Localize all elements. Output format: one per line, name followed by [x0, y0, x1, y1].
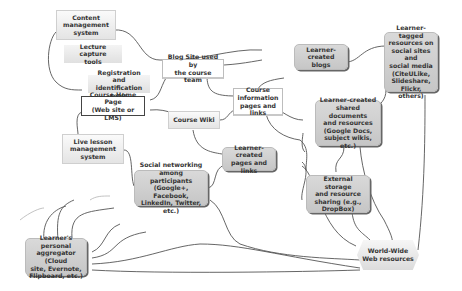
- node-line: subject wikis, etc.): [318, 134, 378, 149]
- node-line: Live lesson: [70, 138, 116, 146]
- node-line: World-Wide: [362, 247, 414, 255]
- node-line: system: [63, 29, 109, 37]
- node-line: resources on: [387, 39, 435, 47]
- node-line: Course Wiki: [173, 116, 214, 124]
- node-line: Slideshare, Flickr,: [387, 77, 435, 92]
- node-line: information: [236, 94, 280, 102]
- node-line: blogs: [297, 61, 345, 69]
- node-line: Registration and: [90, 69, 148, 84]
- node-line: social sites and: [387, 47, 435, 62]
- node-line: among participants: [137, 169, 205, 184]
- node-learner-tagged-resources[interactable]: Learner-tagged resources on social sites…: [384, 32, 438, 92]
- node-line: the course team: [165, 69, 221, 84]
- node-learner-created-blogs[interactable]: Learner-created blogs: [294, 44, 348, 70]
- node-line: Learner-created: [318, 96, 378, 104]
- node-line: and resource: [309, 190, 367, 198]
- node-line: social media: [387, 62, 435, 70]
- node-line: Social networking: [137, 161, 205, 169]
- node-line: others): [387, 92, 435, 100]
- node-blog-site[interactable]: Blog Site used by the course team: [162, 59, 224, 79]
- node-line: management: [70, 145, 116, 153]
- node-course-home-page[interactable]: Course Home Page (Web site or LMS): [81, 96, 145, 116]
- mind-map-canvas: Content management system Lecture captur…: [0, 0, 462, 291]
- node-line: pages and links: [225, 159, 273, 174]
- node-line: (Google+, Facebook,: [137, 184, 205, 199]
- node-line: External storage: [309, 175, 367, 190]
- node-social-networking[interactable]: Social networking among participants (Go…: [134, 170, 208, 206]
- node-line: Learner-tagged: [387, 24, 435, 39]
- node-line: site, Evernote,: [28, 265, 84, 273]
- node-line: management: [63, 21, 109, 29]
- node-line: system: [70, 153, 116, 161]
- node-line: Lecture capture: [66, 43, 120, 58]
- node-line: (Google Docs,: [318, 127, 378, 135]
- node-course-information-pages[interactable]: Course information pages and links: [233, 88, 283, 116]
- node-line: sharing (e.g.,: [309, 198, 367, 206]
- node-line: Course Home Page: [84, 91, 142, 106]
- node-lecture-capture-tools[interactable]: Lecture capture tools: [64, 45, 122, 63]
- node-line: tools: [66, 58, 120, 66]
- node-world-wide-web-resources[interactable]: World-Wide Web resources: [357, 240, 419, 270]
- node-line: (CiteULike,: [387, 70, 435, 78]
- node-line: Blog Site used by: [165, 53, 221, 68]
- node-course-wiki[interactable]: Course Wiki: [168, 111, 220, 129]
- node-line: and resources: [318, 119, 378, 127]
- node-line: Flipboard, etc.): [28, 272, 84, 280]
- node-line: Content: [63, 14, 109, 22]
- node-line: DropBox): [309, 205, 367, 213]
- node-learner-shared-documents[interactable]: Learner-created shared documents and res…: [315, 100, 381, 146]
- node-content-management-system[interactable]: Content management system: [56, 10, 116, 40]
- node-line: Learner-created: [225, 144, 273, 159]
- node-line: pages and links: [236, 102, 280, 117]
- node-personal-aggregator[interactable]: Learner's personal aggregator (Cloud sit…: [25, 238, 87, 276]
- node-live-lesson-management[interactable]: Live lesson management system: [62, 134, 124, 164]
- node-external-storage[interactable]: External storage and resource sharing (e…: [306, 175, 370, 213]
- node-line: Course: [236, 86, 280, 94]
- node-line: (Web site or LMS): [84, 106, 142, 121]
- node-learner-created-pages[interactable]: Learner-created pages and links: [222, 147, 276, 171]
- node-line: Learner's personal: [28, 234, 84, 249]
- node-line: shared documents: [318, 104, 378, 119]
- node-line: Web resources: [362, 255, 414, 263]
- node-line: Learner-created: [297, 46, 345, 61]
- node-line: aggregator (Cloud: [28, 249, 84, 264]
- node-line: LinkedIn, Twitter, etc.): [137, 199, 205, 214]
